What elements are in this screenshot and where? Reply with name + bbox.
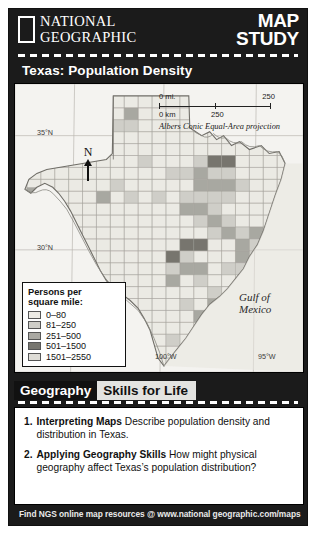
map-scale-bar: 0 mi. 250 0 km 250 Albers Conic Equal-Ar… bbox=[159, 92, 297, 131]
brand-line-2: GEOGRAPHIC bbox=[40, 30, 136, 45]
gulf-of-mexico-label: Gulf of Mexico bbox=[239, 291, 271, 316]
skills-section-header: Geography Skills for Life bbox=[14, 381, 196, 400]
scale-bar-line bbox=[159, 103, 271, 109]
map-study-wordmark: MAP STUDY bbox=[236, 12, 299, 48]
skills-tab-skills-for-life: Skills for Life bbox=[97, 381, 196, 400]
longitude-label-95w: 95°W bbox=[258, 352, 276, 361]
legend-swatch-1501-2550 bbox=[28, 353, 41, 361]
header-band: NATIONAL GEOGRAPHIC MAP STUDY bbox=[9, 9, 307, 54]
map-legend: Persons per square mile: 0–80 81–250 251… bbox=[22, 282, 126, 367]
north-arrow-icon bbox=[84, 159, 93, 181]
legend-swatch-501-1500 bbox=[28, 342, 41, 350]
north-arrow: N bbox=[77, 146, 99, 181]
footer-bar: Find NGS online map resources @ www.nati… bbox=[14, 506, 304, 521]
map-study-page: NATIONAL GEOGRAPHIC MAP STUDY Texas: Pop… bbox=[0, 0, 316, 536]
questions-panel: 1. Interpreting Maps Describe population… bbox=[14, 407, 304, 505]
skills-dashed-divider bbox=[18, 401, 298, 404]
brand-line-1: NATIONAL bbox=[40, 14, 136, 29]
map-projection-label: Albers Conic Equal-Area projection bbox=[159, 122, 297, 131]
longitude-label-100w: 100°W bbox=[155, 352, 177, 361]
latitude-label-30n: 30°N bbox=[37, 243, 53, 252]
gulf-label-line-1: Gulf of bbox=[239, 291, 271, 303]
legend-swatch-0-80 bbox=[28, 311, 41, 319]
texas-population-density-map[interactable]: 35°N 30°N 100°W 95°W Gulf of Mexico N 0 … bbox=[14, 83, 304, 373]
question-bold-lead: Applying Geography Skills bbox=[37, 449, 167, 460]
skills-tab-geography: Geography bbox=[14, 381, 97, 400]
header-dashed-divider bbox=[18, 54, 298, 57]
legend-label-0-80: 0–80 bbox=[46, 310, 66, 320]
scale-miles-end: 250 bbox=[262, 92, 275, 101]
ng-wordmark: NATIONAL GEOGRAPHIC bbox=[40, 14, 136, 44]
legend-label-251-500: 251–500 bbox=[46, 331, 81, 341]
national-geographic-logo: NATIONAL GEOGRAPHIC bbox=[18, 14, 136, 44]
question-item: 2. Applying Geography Skills How might p… bbox=[24, 448, 294, 474]
page-title: Texas: Population Density bbox=[22, 63, 192, 78]
legend-title: Persons per square mile: bbox=[28, 287, 120, 308]
question-number: 1. bbox=[24, 415, 33, 441]
legend-swatch-81-250 bbox=[28, 321, 41, 329]
ng-yellow-rectangle-icon bbox=[18, 16, 35, 43]
gulf-label-line-2: Mexico bbox=[239, 303, 271, 315]
feature-line-2: STUDY bbox=[236, 30, 299, 48]
legend-item: 501–1500 bbox=[28, 341, 120, 352]
map-title-bar: Texas: Population Density bbox=[9, 60, 307, 81]
legend-item: 251–500 bbox=[28, 331, 120, 342]
legend-item: 0–80 bbox=[28, 310, 120, 321]
legend-swatch-251-500 bbox=[28, 332, 41, 340]
north-arrow-label: N bbox=[77, 146, 99, 158]
legend-title-line-2: square mile: bbox=[28, 297, 120, 307]
question-text: Applying Geography Skills How might phys… bbox=[37, 448, 295, 474]
question-number: 2. bbox=[24, 448, 33, 474]
legend-label-1501-2550: 1501–2550 bbox=[46, 352, 91, 362]
map-study-card: NATIONAL GEOGRAPHIC MAP STUDY Texas: Pop… bbox=[8, 8, 308, 526]
question-item: 1. Interpreting Maps Describe population… bbox=[24, 415, 294, 441]
legend-item: 81–250 bbox=[28, 320, 120, 331]
legend-label-501-1500: 501–1500 bbox=[46, 341, 86, 351]
scale-km-start: 0 km bbox=[159, 110, 175, 119]
scale-km-mid: 250 bbox=[211, 110, 224, 119]
scale-miles-start: 0 mi. bbox=[159, 92, 175, 101]
legend-item: 1501–2550 bbox=[28, 352, 120, 363]
question-text: Interpreting Maps Describe population de… bbox=[37, 415, 295, 441]
footer-text: Find NGS online map resources @ www.nati… bbox=[19, 509, 301, 519]
legend-label-81-250: 81–250 bbox=[46, 320, 76, 330]
question-bold-lead: Interpreting Maps bbox=[37, 416, 122, 427]
latitude-label-35n: 35°N bbox=[37, 128, 53, 137]
legend-title-line-1: Persons per bbox=[28, 287, 120, 297]
